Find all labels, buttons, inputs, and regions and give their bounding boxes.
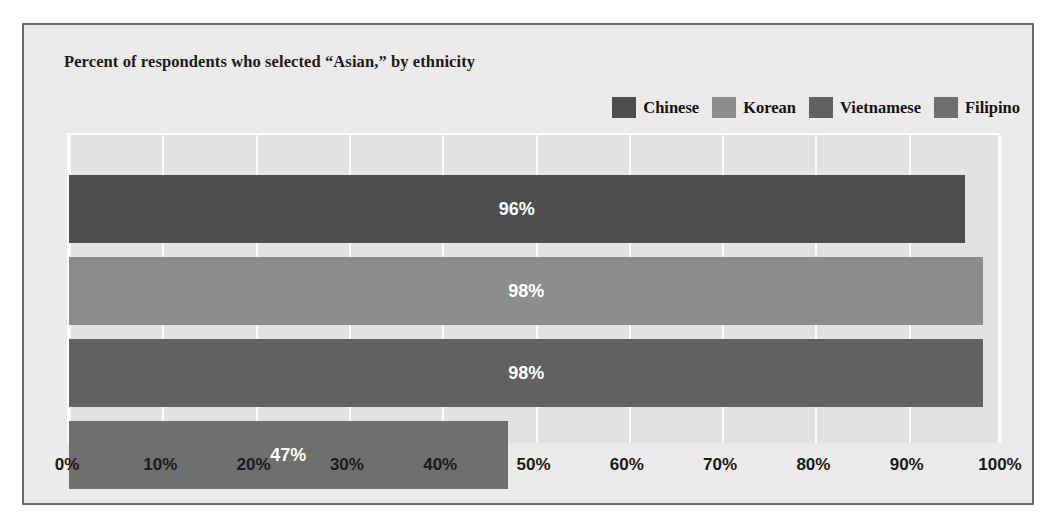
x-axis-tick-label: 70% (703, 455, 737, 475)
bar-value-label: 98% (508, 363, 544, 384)
legend-item-vietnamese: Vietnamese (809, 97, 921, 118)
bar-value-label: 98% (508, 281, 544, 302)
x-axis-tick-label: 20% (237, 455, 271, 475)
x-axis-tick-label: 30% (330, 455, 364, 475)
bar-row: 96% (69, 175, 1002, 243)
bar-series: 96%98%98%47% (69, 135, 998, 443)
plot-area: 96%98%98%47% (67, 133, 1000, 443)
chart-figure: Percent of respondents who selected “Asi… (22, 23, 1034, 505)
bar-row: 98% (69, 257, 1002, 325)
x-axis-tick-label: 90% (890, 455, 924, 475)
legend-item-chinese: Chinese (612, 97, 699, 118)
legend-item-filipino: Filipino (934, 97, 1020, 118)
x-axis-tick-label: 50% (516, 455, 550, 475)
legend-swatch-icon (809, 97, 833, 118)
legend-label: Chinese (643, 98, 699, 118)
legend-swatch-icon (934, 97, 958, 118)
chart-title: Percent of respondents who selected “Asi… (64, 52, 475, 72)
x-axis-tick-label: 10% (143, 455, 177, 475)
x-axis-tick-label: 0% (55, 455, 80, 475)
legend-label: Filipino (965, 98, 1020, 118)
x-axis-tick-label: 60% (610, 455, 644, 475)
x-axis-tick-label: 40% (423, 455, 457, 475)
chart-legend: Chinese Korean Vietnamese Filipino (612, 97, 1020, 118)
legend-swatch-icon (712, 97, 736, 118)
bar-row: 98% (69, 339, 1002, 407)
legend-swatch-icon (612, 97, 636, 118)
x-axis-tick-label: 100% (978, 455, 1021, 475)
x-axis: 0%10%20%30%40%50%60%70%80%90%100% (67, 445, 1000, 485)
x-axis-tick-label: 80% (796, 455, 830, 475)
legend-label: Vietnamese (840, 98, 921, 118)
legend-label: Korean (743, 98, 796, 118)
legend-item-korean: Korean (712, 97, 796, 118)
bar-value-label: 96% (499, 199, 535, 220)
